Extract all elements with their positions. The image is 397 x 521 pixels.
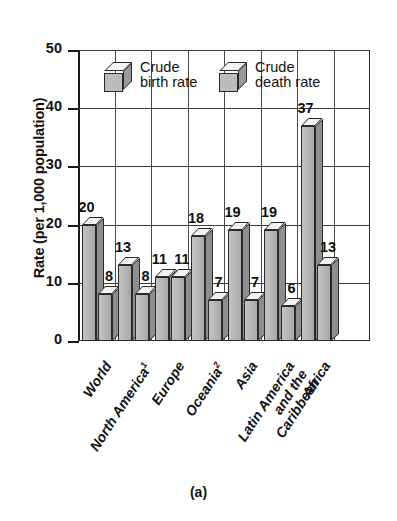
y-tick-label: 20 [18, 215, 62, 231]
y-tick-label: 30 [18, 156, 62, 172]
y-tick-mark [68, 225, 79, 227]
y-tick-mark [68, 108, 79, 110]
y-tick-label: 10 [18, 273, 62, 289]
y-tick-label: 50 [18, 40, 62, 56]
y-tick-label: 0 [18, 331, 62, 347]
bar-crude-death-rate [244, 292, 258, 341]
bar-front-face [244, 300, 258, 341]
bar-value-label: 37 [286, 100, 326, 116]
figure-panel: Rate (per 1,000 population) 01020304050 … [0, 0, 397, 521]
bar-crude-birth-rate [301, 118, 315, 341]
legend-label-line1: Crude [140, 60, 197, 75]
bar-crude-death-rate [98, 286, 112, 341]
legend-label-line2: birth rate [140, 75, 197, 90]
bar-value-label: 11 [162, 251, 202, 267]
bar-value-label: 8 [126, 268, 166, 284]
bar-crude-death-rate [208, 292, 222, 341]
bar-crude-death-rate [281, 298, 295, 341]
y-tick-mark [68, 283, 79, 285]
bar-front-face [98, 294, 112, 341]
bar-value-label: 13 [308, 239, 348, 255]
bar-side-face [331, 258, 339, 341]
bar-value-label: 19 [249, 204, 289, 220]
bar-crude-death-rate [317, 257, 331, 341]
legend-label: Crudedeath rate [255, 60, 320, 90]
bar-value-label: 7 [235, 274, 275, 290]
legend-label-line1: Crude [255, 60, 320, 75]
bar-value-label: 8 [89, 268, 129, 284]
bar-crude-death-rate [135, 286, 149, 341]
bar-value-label: 6 [272, 280, 312, 296]
bar-value-label: 20 [67, 199, 107, 215]
y-tick-mark [68, 50, 79, 52]
bar-value-label: 7 [199, 274, 239, 290]
bar-front-face [155, 277, 169, 341]
cube-front-face [219, 73, 238, 92]
cube-front-face [104, 73, 123, 92]
y-tick-label: 40 [18, 98, 62, 114]
bar-value-label: 13 [103, 239, 143, 255]
y-tick-mark [68, 166, 79, 168]
bar-front-face [317, 265, 331, 341]
bar-front-face [301, 126, 315, 341]
cube-icon [219, 62, 249, 92]
bar-front-face [171, 277, 185, 341]
figure-caption: (a) [0, 484, 397, 500]
legend-label-line2: death rate [255, 75, 320, 90]
bar-crude-death-rate [171, 269, 185, 341]
bar-value-label: 19 [213, 204, 253, 220]
bar-value-label: 18 [176, 210, 216, 226]
legend-label: Crudebirth rate [140, 60, 197, 90]
bar-front-face [208, 300, 222, 341]
y-tick-mark [68, 341, 79, 343]
bar-front-face [135, 294, 149, 341]
bar-front-face [281, 306, 295, 341]
cube-icon [104, 62, 134, 92]
